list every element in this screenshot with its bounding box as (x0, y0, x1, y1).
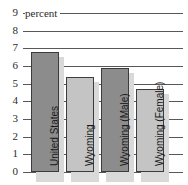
y-axis-unit-label: percent (25, 8, 60, 19)
plot-area: United StatesWyomingWyoming (Male)Wyomin… (0, 0, 188, 185)
bar-chart: 9876543210 percent United StatesWyomingW… (0, 0, 188, 185)
